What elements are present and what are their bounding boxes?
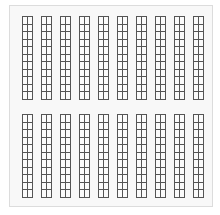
grid-cell	[161, 32, 166, 40]
grid-cell	[66, 47, 71, 55]
grid-cell	[85, 190, 90, 198]
grid-cell	[161, 77, 166, 85]
grid-cell	[66, 40, 71, 48]
grid-cell	[161, 145, 166, 153]
grid-cell	[66, 160, 71, 168]
grid-cell	[142, 138, 147, 146]
grid-cell	[199, 123, 204, 131]
grid-cell	[104, 85, 109, 93]
grid-cell	[142, 168, 147, 176]
grid-cell	[123, 145, 128, 153]
grid-strip	[136, 114, 147, 198]
grid-cell	[104, 115, 109, 123]
grid-cell	[85, 70, 90, 78]
grid-cell	[28, 62, 33, 70]
grid-strip	[193, 114, 204, 198]
grid-cell	[47, 153, 52, 161]
grid-cell	[104, 92, 109, 100]
grid-cell	[47, 123, 52, 131]
grid-cell	[123, 70, 128, 78]
grid-strip	[174, 16, 185, 100]
grid-cell	[66, 130, 71, 138]
grid-cell	[66, 175, 71, 183]
grid-cell	[142, 115, 147, 123]
grid-cell	[47, 145, 52, 153]
grid-cell	[104, 32, 109, 40]
grid-cell	[28, 160, 33, 168]
grid-cell	[123, 160, 128, 168]
grid-cell	[180, 85, 185, 93]
grid-cell	[180, 115, 185, 123]
grid-cell	[85, 130, 90, 138]
grid-cell	[66, 32, 71, 40]
grid-cell	[28, 153, 33, 161]
grid-cell	[199, 70, 204, 78]
grid-cell	[66, 62, 71, 70]
grid-cell	[123, 175, 128, 183]
grid-cell	[123, 138, 128, 146]
grid-cell	[123, 92, 128, 100]
grid-cell	[161, 153, 166, 161]
grid-cell	[85, 123, 90, 131]
grid-cell	[28, 138, 33, 146]
grid-cell	[28, 130, 33, 138]
grid-strip	[22, 114, 33, 198]
grid-cell	[142, 183, 147, 191]
grid-cell	[85, 183, 90, 191]
grid-cell	[47, 17, 52, 25]
grid-cell	[104, 138, 109, 146]
grid-cell	[85, 153, 90, 161]
grid-cell	[104, 153, 109, 161]
grid-cell	[104, 55, 109, 63]
grid-cell	[161, 160, 166, 168]
grid-cell	[47, 115, 52, 123]
grid-cell	[161, 70, 166, 78]
grid-strip	[136, 16, 147, 100]
grid-cell	[47, 47, 52, 55]
grid-cell	[199, 55, 204, 63]
grid-cell	[180, 183, 185, 191]
grid-cell	[180, 55, 185, 63]
strip-block-top	[22, 16, 204, 100]
grid-cell	[199, 115, 204, 123]
grid-cell	[104, 168, 109, 176]
grid-cell	[47, 55, 52, 63]
grid-cell	[199, 190, 204, 198]
grid-cell	[142, 85, 147, 93]
grid-cell	[161, 123, 166, 131]
grid-cell	[85, 92, 90, 100]
grid-cell	[142, 25, 147, 33]
grid-cell	[199, 183, 204, 191]
grid-cell	[180, 62, 185, 70]
grid-cell	[161, 183, 166, 191]
grid-cell	[104, 17, 109, 25]
grid-cell	[28, 40, 33, 48]
grid-strip	[60, 114, 71, 198]
grid-cell	[85, 77, 90, 85]
grid-cell	[199, 25, 204, 33]
grid-cell	[161, 168, 166, 176]
grid-cell	[123, 77, 128, 85]
grid-cell	[66, 70, 71, 78]
grid-cell	[199, 145, 204, 153]
grid-cell	[123, 40, 128, 48]
grid-cell	[142, 77, 147, 85]
grid-cell	[123, 32, 128, 40]
grid-cell	[123, 190, 128, 198]
grid-cell	[66, 168, 71, 176]
grid-cell	[85, 160, 90, 168]
grid-cell	[199, 92, 204, 100]
grid-cell	[47, 92, 52, 100]
grid-cell	[85, 168, 90, 176]
grid-cell	[142, 40, 147, 48]
grid-cell	[199, 138, 204, 146]
grid-cell	[180, 145, 185, 153]
grid-cell	[180, 77, 185, 85]
grid-cell	[28, 190, 33, 198]
grid-cell	[85, 175, 90, 183]
grid-strip	[193, 16, 204, 100]
grid-cell	[142, 175, 147, 183]
grid-cell	[199, 17, 204, 25]
grid-cell	[85, 32, 90, 40]
grid-cell	[66, 138, 71, 146]
